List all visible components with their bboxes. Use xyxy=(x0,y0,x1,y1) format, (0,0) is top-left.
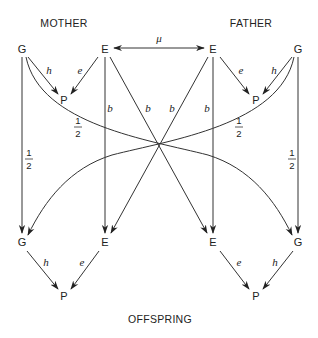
child-right-e-label: e xyxy=(237,256,242,268)
father-label: FATHER xyxy=(230,17,273,29)
mu-label: μ xyxy=(155,32,162,44)
b-label-1: b xyxy=(107,102,113,114)
half-label-mid-right-den: 2 xyxy=(236,128,241,139)
mother-genotype-node: G xyxy=(18,43,27,55)
mother-h-label: h xyxy=(46,64,52,76)
path-diagram: MOTHER FATHER OFFSPRING G E P E G P G E … xyxy=(0,0,318,338)
child-left-e-label: e xyxy=(80,256,85,268)
child-right-h-edge xyxy=(263,251,293,289)
child-genotype-right-node: G xyxy=(294,236,303,248)
father-environment-node: E xyxy=(209,43,216,55)
father-e-edge xyxy=(220,57,249,94)
father-h-label: h xyxy=(271,64,277,76)
child-phenotype-left-node: P xyxy=(60,290,67,302)
mother-environment-node: E xyxy=(101,43,108,55)
mother-phenotype-node: P xyxy=(60,94,67,106)
half-label-left-den: 2 xyxy=(26,160,31,171)
b-label-2: b xyxy=(145,102,151,114)
father-e-to-child-e-left-edge xyxy=(111,57,208,233)
father-phenotype-node: P xyxy=(252,94,259,106)
mother-label: MOTHER xyxy=(40,17,87,29)
child-phenotype-right-node: P xyxy=(252,290,259,302)
b-label-3: b xyxy=(169,102,175,114)
father-g-to-child-g-left-edge xyxy=(28,57,294,235)
child-left-e-edge xyxy=(71,251,99,289)
child-right-h-label: h xyxy=(272,256,278,268)
half-label-mid-right-num: 1 xyxy=(236,115,241,126)
father-e-label: e xyxy=(239,64,244,76)
child-environment-left-node: E xyxy=(101,236,108,248)
child-environment-right-node: E xyxy=(209,236,216,248)
half-label-right-num: 1 xyxy=(289,147,294,158)
child-right-e-edge xyxy=(220,251,249,289)
mother-e-label: e xyxy=(78,64,83,76)
offspring-label: OFFSPRING xyxy=(128,313,192,325)
half-label-left-num: 1 xyxy=(26,147,31,158)
child-left-h-label: h xyxy=(43,256,49,268)
child-genotype-left-node: G xyxy=(18,236,27,248)
father-genotype-node: G xyxy=(294,43,303,55)
half-label-mid-left-num: 1 xyxy=(75,115,80,126)
mother-e-edge xyxy=(71,57,98,94)
mother-e-to-child-e-right-edge xyxy=(110,57,207,233)
half-label-right-den: 2 xyxy=(289,160,294,171)
half-label-mid-left-den: 2 xyxy=(75,128,80,139)
b-label-4: b xyxy=(204,102,210,114)
